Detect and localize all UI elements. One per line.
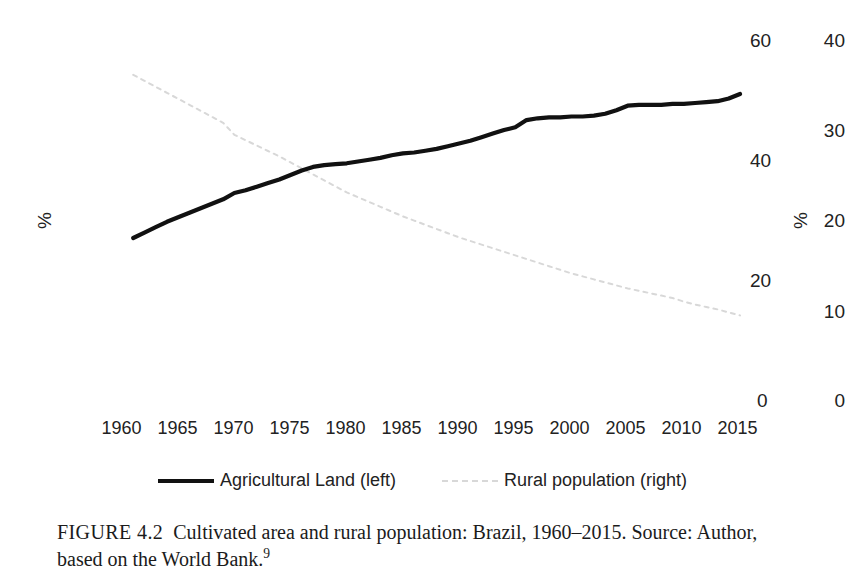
chart-legend: Agricultural Land (left) Rural populatio… [0,470,845,491]
legend-label: Agricultural Land (left) [220,470,396,491]
x-axis-tick: 1990 [426,419,489,437]
series-rural-population [133,75,740,316]
x-axis-tick: 1970 [202,419,265,437]
x-axis-tick: 1960 [90,419,153,437]
figure-caption-title: Cultivated area and rural population: Br… [173,521,626,543]
y-axis-right-tick: 20 [750,271,771,290]
figure-container: 40 30 20 10 0 % 60 40 20 0 % 1960 1965 1… [0,0,845,579]
x-axis-tick: 1965 [146,419,209,437]
y-axis-right-unit-label: % [791,212,810,229]
figure-caption-label: FIGURE 4.2 [57,521,163,543]
legend-item-agricultural-land[interactable]: Agricultural Land (left) [158,470,396,491]
x-axis-tick: 1975 [258,419,321,437]
y-axis-left-tick: 10 [740,302,845,321]
figure-caption: FIGURE 4.2 Cultivated area and rural pop… [57,519,777,572]
y-axis-right-tick: 40 [750,151,771,170]
x-axis-tick: 1995 [482,419,545,437]
series-agricultural-land [133,94,740,238]
legend-label: Rural population (right) [504,470,687,491]
y-axis-left-tick: 30 [740,121,845,140]
solid-line-swatch-icon [158,479,214,483]
x-axis-tick: 1985 [370,419,433,437]
legend-item-rural-population[interactable]: Rural population (right) [442,470,687,491]
y-axis-right-tick: 0 [757,391,768,410]
chart-canvas [0,0,845,445]
x-axis-tick: 2010 [650,419,713,437]
chart-plot-area: 40 30 20 10 0 % 60 40 20 0 % 1960 1965 1… [0,0,845,445]
y-axis-left-unit-label: % [35,212,54,229]
x-axis-tick: 2000 [538,419,601,437]
figure-caption-footnote-marker: 9 [263,546,270,561]
y-axis-right-tick: 60 [750,31,771,50]
x-axis-tick: 2005 [594,419,657,437]
dotted-line-swatch-icon [442,480,498,482]
x-axis-tick: 1980 [314,419,377,437]
x-axis-tick: 2015 [706,419,769,437]
